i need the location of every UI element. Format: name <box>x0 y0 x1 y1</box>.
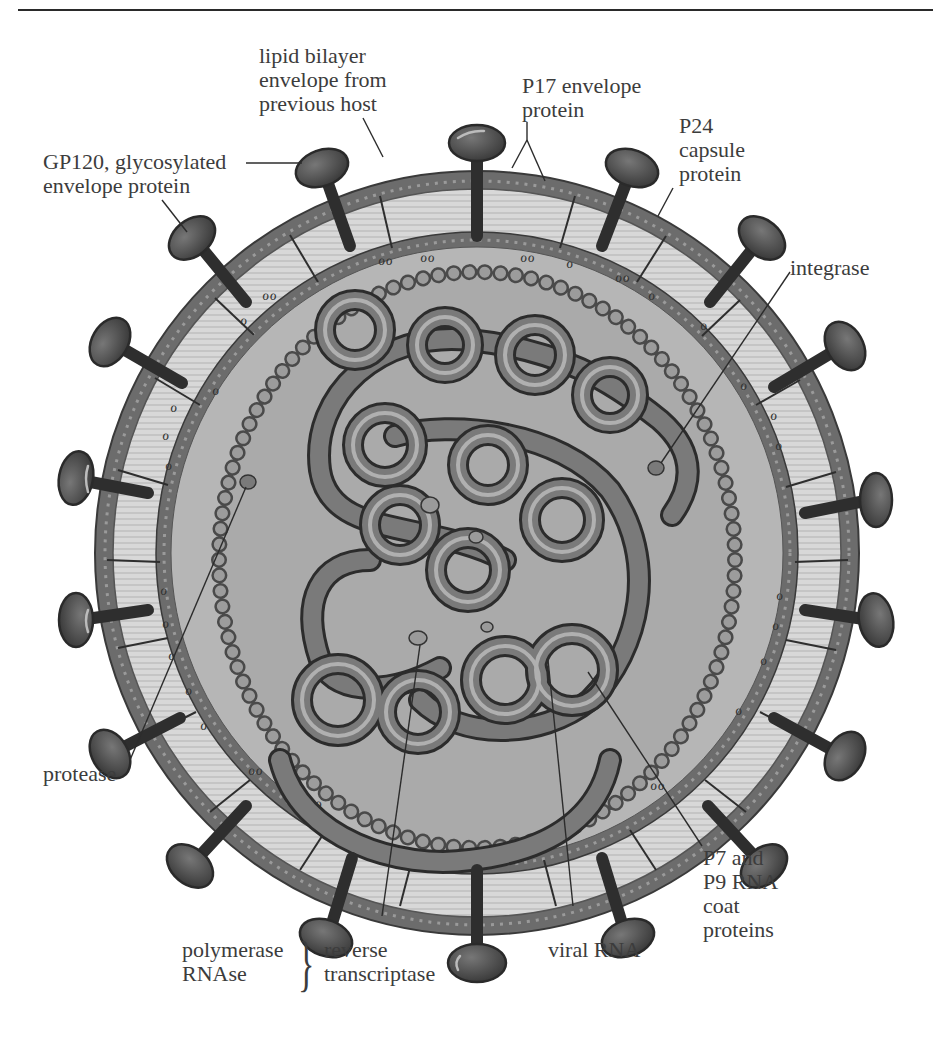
svg-text:ℴℴ: ℴℴ <box>520 247 535 266</box>
svg-text:ℴℴ: ℴℴ <box>378 250 393 269</box>
svg-text:ℴ: ℴ <box>240 310 247 329</box>
svg-text:ℴℴ: ℴℴ <box>262 285 277 304</box>
svg-text:ℴ: ℴ <box>162 613 169 632</box>
label-line: coat <box>703 894 778 918</box>
svg-text:ℴ: ℴ <box>566 253 573 272</box>
label-line: proteins <box>703 918 778 942</box>
label-line: P17 envelope <box>522 74 641 98</box>
leader-p17-a <box>512 140 527 168</box>
label-line: integrase <box>790 256 869 280</box>
label-line: protease <box>43 762 116 786</box>
label-line: protein <box>679 162 745 186</box>
rna-enzyme-4 <box>481 622 493 632</box>
label-line: P9 RNA <box>703 870 778 894</box>
svg-text:ℴ: ℴ <box>185 680 192 699</box>
label-line: envelope protein <box>43 174 226 198</box>
label-viral-rna: viral RNA <box>548 938 640 962</box>
label-protease: protease <box>43 762 116 786</box>
label-line: transcriptase <box>324 962 435 986</box>
svg-text:ℴ: ℴ <box>772 615 779 634</box>
grouping-brace: } <box>298 932 314 994</box>
svg-text:ℴ: ℴ <box>735 700 742 719</box>
svg-text:ℴℴ: ℴℴ <box>248 760 263 779</box>
svg-text:ℴ: ℴ <box>162 425 169 444</box>
protease-enzyme <box>240 475 256 489</box>
leader-lipid-bilayer <box>363 118 383 157</box>
svg-text:ℴ: ℴ <box>165 455 172 474</box>
svg-text:ℴ: ℴ <box>212 380 219 399</box>
svg-text:ℴℴ: ℴℴ <box>420 247 435 266</box>
svg-text:ℴ: ℴ <box>775 435 782 454</box>
label-line: GP120, glycosylated <box>43 150 226 174</box>
svg-text:ℴ: ℴ <box>160 580 167 599</box>
svg-text:ℴ: ℴ <box>740 375 747 394</box>
label-p7-p9-coat-proteins: P7 and P9 RNA coat proteins <box>703 846 778 942</box>
label-line: protein <box>522 98 641 122</box>
label-line: capsule <box>679 138 745 162</box>
svg-text:ℴ: ℴ <box>760 650 767 669</box>
svg-text:ℴ: ℴ <box>200 715 207 734</box>
label-p17-envelope-protein: P17 envelope protein <box>522 74 641 122</box>
svg-text:ℴ: ℴ <box>648 285 655 304</box>
leader-gp120-2 <box>162 200 187 232</box>
label-integrase: integrase <box>790 256 869 280</box>
label-line: reverse <box>324 938 435 962</box>
rna-enzyme-2 <box>469 531 483 543</box>
label-line: P7 and <box>703 846 778 870</box>
svg-text:ℴ: ℴ <box>770 405 777 424</box>
label-line: lipid bilayer <box>259 44 387 68</box>
svg-text:ℴ: ℴ <box>170 397 177 416</box>
label-line: P24 <box>679 114 745 138</box>
label-lipid-bilayer: lipid bilayer envelope from previous hos… <box>259 44 387 116</box>
svg-text:ℴ: ℴ <box>776 585 783 604</box>
label-line: viral RNA <box>548 938 640 962</box>
label-line: polymerase <box>182 938 283 962</box>
label-line: previous host <box>259 92 387 116</box>
svg-text:ℴℴ: ℴℴ <box>615 267 630 286</box>
label-polymerase-rnase: polymerase RNAse <box>182 938 283 986</box>
label-gp120: GP120, glycosylated envelope protein <box>43 150 226 198</box>
leader-p24 <box>658 188 673 216</box>
svg-text:ℴ: ℴ <box>700 315 707 334</box>
label-p24-capsule-protein: P24 capsule protein <box>679 114 745 186</box>
label-reverse-transcriptase: reverse transcriptase <box>324 938 435 986</box>
reverse-transcriptase-enzyme <box>409 631 427 645</box>
rna-enzyme-1 <box>421 497 439 513</box>
label-line: RNAse <box>182 962 283 986</box>
label-line: envelope from <box>259 68 387 92</box>
